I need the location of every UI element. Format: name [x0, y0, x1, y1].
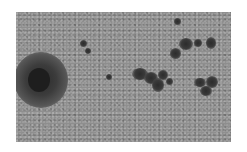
- solar-granulation-photo: [16, 12, 231, 142]
- upper-right-spot: [206, 37, 216, 49]
- upper-right-spot: [194, 39, 202, 47]
- central-spot: [152, 78, 164, 92]
- pore: [106, 74, 112, 80]
- upper-right-spot: [179, 38, 193, 50]
- upper-right-spot: [170, 48, 181, 59]
- pore: [80, 40, 87, 47]
- pore: [85, 48, 91, 54]
- large-sunspot-umbra: [28, 68, 50, 92]
- upper-right-spot: [174, 18, 181, 25]
- central-spot: [166, 78, 173, 85]
- right-spot: [200, 86, 212, 96]
